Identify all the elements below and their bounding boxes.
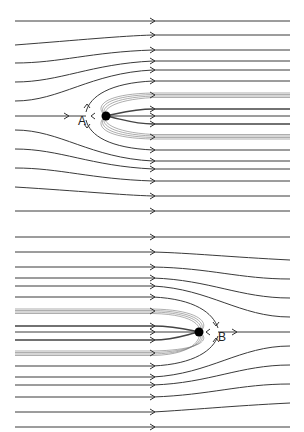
dividing-streamline-upper <box>86 81 290 112</box>
label-a: A <box>78 114 86 128</box>
streamline <box>15 346 290 377</box>
label-b: B <box>218 330 226 344</box>
streamline-diagram: A <box>0 0 304 432</box>
sink-point-b <box>195 328 204 337</box>
bottom-panel-sink-flow: B <box>15 234 290 430</box>
source-point-a <box>102 112 111 121</box>
source-inner-streamlines <box>101 93 290 139</box>
sink-inner-streamlines <box>15 309 204 356</box>
top-panel-source-flow: A <box>15 18 290 214</box>
dividing-streamline-upper <box>15 297 218 328</box>
